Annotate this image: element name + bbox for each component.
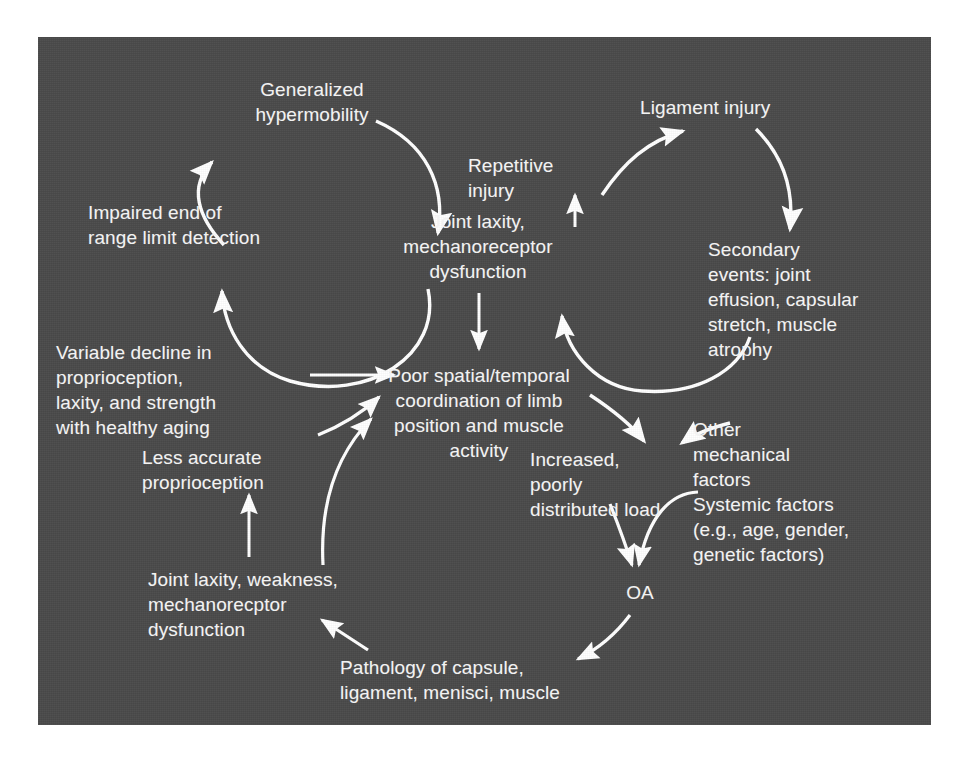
node-impaired-end-range-limit-detection: Impaired end of range limit detection [88,200,338,250]
node-pathology-of-capsule-ligament-menisci-muscle: Pathology of capsule, ligament, menisci,… [340,655,620,705]
node-joint-laxity-weakness-mechanoreceptor-dysfunction: Joint laxity, weakness, mechanorecptor d… [148,567,398,642]
edge-oa-to-pathology [578,615,630,659]
edge-ligament-injury-to-secondary-events [756,129,791,229]
node-other-mechanical-factors: Other mechanical factors [693,417,843,492]
diagram-panel: Generalized hypermobility Impaired end o… [38,37,931,725]
node-repetitive-injury: Repetitive injury [468,153,586,203]
node-generalized-hypermobility: Generalized hypermobility [202,77,422,127]
node-oa: OA [613,580,667,605]
node-systemic-factors: Systemic factors (e.g., age, gender, gen… [693,492,903,567]
edge-poor-coordination-to-increased-load [590,395,644,441]
node-secondary-events: Secondary events: joint effusion, capsul… [708,237,888,362]
node-ligament-injury: Ligament injury [640,95,840,120]
node-variable-decline-proprioception: Variable decline in proprioception, laxi… [56,340,306,440]
figure-root: Generalized hypermobility Impaired end o… [0,0,967,758]
node-increased-poorly-distributed-load: Increased, poorly distributed load [530,447,700,522]
node-less-accurate-proprioception: Less accurate proprioception [142,445,358,495]
edge-repetitive-injury-to-ligament-injury [602,131,683,195]
node-joint-laxity-mechanoreceptor-dysfunction: Joint laxity, mechanoreceptor dysfunctio… [378,209,578,284]
